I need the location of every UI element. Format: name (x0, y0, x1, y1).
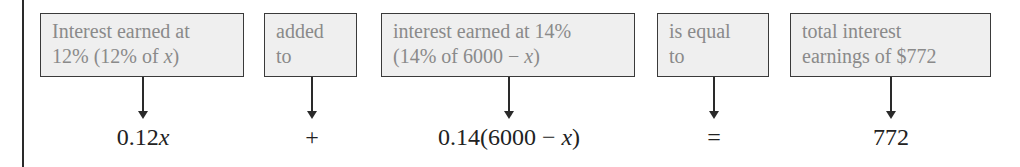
arrow-shaft-2 (311, 77, 313, 113)
down-arrow-icon (138, 111, 148, 119)
down-arrow-icon (886, 111, 896, 119)
phrase-box-interest-12: Interest earned at 12% (12% of x) (40, 13, 244, 77)
expression-plus: + (305, 124, 319, 151)
phrase-line-2: to (669, 44, 768, 69)
arrow-shaft-5 (890, 77, 892, 113)
phrase-line-2: earnings of $772 (802, 44, 990, 69)
down-arrow-icon (504, 111, 514, 119)
expression-total: 772 (873, 124, 909, 151)
phrase-line-1: total interest (802, 19, 990, 44)
expression-term-2: 0.14(6000 − x) (438, 124, 580, 151)
phrase-line-1: is equal (669, 19, 768, 44)
down-arrow-icon (709, 111, 719, 119)
left-margin-rule (22, 0, 24, 167)
expression-equals: = (707, 124, 721, 151)
phrase-line-2: to (276, 44, 356, 69)
down-arrow-icon (307, 111, 317, 119)
phrase-line-1: interest earned at 14% (393, 19, 634, 44)
phrase-box-total-interest: total interest earnings of $772 (790, 13, 991, 77)
expression-term-1: 0.12x (117, 124, 170, 151)
arrow-shaft-1 (142, 77, 144, 113)
phrase-box-is-equal-to: is equal to (657, 13, 769, 77)
arrow-shaft-4 (713, 77, 715, 113)
phrase-line-2: 12% (12% of x) (52, 44, 243, 69)
phrase-box-added-to: added to (264, 13, 357, 77)
phrase-line-1: added (276, 19, 356, 44)
phrase-box-interest-14: interest earned at 14% (14% of 6000 − x) (381, 13, 635, 77)
arrow-shaft-3 (508, 77, 510, 113)
phrase-line-1: Interest earned at (52, 19, 243, 44)
phrase-line-2: (14% of 6000 − x) (393, 44, 634, 69)
